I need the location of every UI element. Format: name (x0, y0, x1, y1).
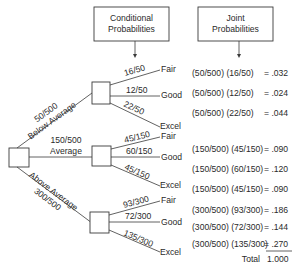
joint-result: = .044 (264, 108, 288, 118)
joint-expr: (300/500) (135/300) (192, 239, 268, 249)
node-below-average (92, 82, 110, 104)
svg-text:Good: Good (161, 152, 182, 162)
svg-text:Fair: Fair (161, 131, 176, 141)
branch-label-above-average: Above Average 300/500 (21, 170, 80, 221)
joint-expr: (300/500) (72/300) (192, 222, 263, 232)
svg-text:60/150: 60/150 (126, 146, 153, 156)
joint-expr: (150/500) (45/150) (192, 184, 263, 194)
joint-result: = .144 (264, 222, 288, 232)
joint-result: = .024 (264, 88, 288, 98)
joint-expr: (50/500) (12/50) (192, 88, 254, 98)
conditional-probabilities-header: Conditional Probabilities (94, 7, 169, 58)
svg-text:72/300: 72/300 (125, 211, 152, 221)
branch-prob-average: 150/500 (50, 135, 81, 145)
branch-label-average: Average (50, 146, 82, 156)
node-average (92, 146, 111, 166)
arrow-down-icon (237, 54, 241, 58)
svg-text:Excel: Excel (160, 247, 181, 257)
probability-tree-diagram: Conditional Probabilities Joint Probabil… (0, 0, 295, 267)
joint-result: = .186 (264, 205, 288, 215)
svg-text:Excel: Excel (160, 121, 181, 131)
joint-expr: (150/500) (45/150) (192, 144, 263, 154)
svg-text:45/150: 45/150 (123, 162, 151, 182)
branch-label-below-average: 50/500 Below Average (20, 91, 78, 141)
joint-probabilities-header: Joint Probabilities (198, 7, 273, 58)
conditional-header-line1: Conditional (110, 13, 153, 23)
total-label: Total (242, 254, 260, 264)
joint-expr: (50/500) (22/50) (192, 108, 254, 118)
arrow-down-icon (133, 54, 137, 58)
joint-result: = .090 (264, 184, 288, 194)
joint-expr: (150/500) (60/150) (192, 164, 263, 174)
node-above-average (90, 212, 109, 233)
joint-expr: (300/500) (93/300) (192, 205, 263, 215)
joint-result: = .120 (264, 164, 288, 174)
svg-text:Fair: Fair (161, 64, 176, 74)
svg-text:Fair: Fair (161, 195, 176, 205)
svg-text:12/50: 12/50 (126, 85, 148, 95)
outcomes-below-average: 16/50 12/50 22/50 Fair Good Excel (110, 62, 182, 131)
svg-text:Good: Good (161, 90, 182, 100)
joint-probabilities-column: (50/500) (16/50) = .032 (50/500) (12/50)… (192, 68, 292, 264)
joint-header-line2: Probabilities (212, 24, 259, 34)
svg-text:135/300: 135/300 (122, 228, 155, 249)
joint-header-line1: Joint (226, 13, 245, 23)
outcomes-above-average: 93/300 72/300 135/300 Fair Good Excel (109, 193, 182, 257)
root-node (9, 148, 29, 167)
conditional-header-line2: Probabilities (108, 24, 155, 34)
svg-text:Good: Good (161, 217, 182, 227)
svg-text:16/50: 16/50 (123, 62, 147, 78)
joint-expr: (50/500) (16/50) (192, 68, 254, 78)
total-value: 1.000 (267, 254, 289, 264)
outcomes-average: 45/150 60/150 45/150 Fair Good Excel (111, 129, 182, 190)
joint-result: = .270 (264, 239, 288, 249)
joint-result: = .032 (264, 68, 288, 78)
svg-text:Excel: Excel (160, 180, 181, 190)
joint-result: = .090 (264, 144, 288, 154)
